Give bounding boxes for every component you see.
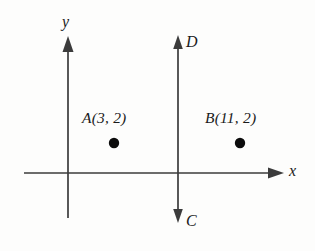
point-a-dot: [109, 138, 119, 148]
line-cd-bottom-arrowhead: [173, 209, 183, 223]
x-axis-arrowhead: [268, 168, 284, 179]
point-b-dot: [235, 138, 245, 148]
coordinate-figure: y x D C A(3, 2) B(11, 2): [0, 0, 315, 251]
point-a-label: A(3, 2): [82, 110, 126, 126]
y-axis-label: y: [62, 14, 69, 30]
line-cd-top-arrowhead: [173, 35, 183, 49]
point-b-label: B(11, 2): [205, 110, 256, 126]
line-cd-bottom-label: C: [186, 213, 197, 229]
x-axis-label: x: [289, 163, 296, 179]
line-cd-top-label: D: [186, 34, 198, 50]
y-axis-arrowhead: [63, 36, 74, 52]
figure-canvas: [0, 0, 315, 251]
